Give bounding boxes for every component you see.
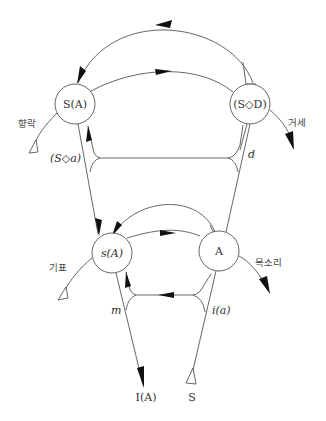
arrow-left-icon [155, 20, 172, 28]
graph-of-desire-diagram: S(A) (S◇D) s(A) A (S◇a) d m i(a) I(A) S … [0, 0, 326, 421]
endpoint-label-s: S [188, 391, 196, 404]
arrow-down-icon [285, 131, 294, 150]
node-label-big-a: A [214, 245, 224, 258]
edge-from-s [193, 271, 216, 370]
label-castration: 거세 [288, 117, 306, 128]
arrow-left-icon [158, 292, 174, 298]
arrow-down-icon [259, 276, 270, 294]
arrow-open-icon [29, 140, 38, 153]
edge-label-m: m [111, 304, 121, 317]
arrow-down-icon [137, 366, 144, 388]
arrow-open-icon [58, 287, 68, 300]
edge-top-branch [243, 62, 256, 84]
node-label-s-lozenge-d: (S◇D) [233, 98, 266, 111]
edge-label-s-lozenge-a: (S◇a) [50, 152, 81, 165]
edge-lower-bar [126, 272, 211, 295]
label-voice: 목소리 [255, 257, 282, 268]
arrow-open-icon [186, 368, 196, 384]
edge-sa-to-sd [91, 72, 233, 92]
edge-lower-arc [113, 204, 215, 234]
endpoint-label-i-a: I(A) [136, 391, 157, 404]
node-label-s-barred-a: S(A) [63, 98, 87, 111]
edge-top-arc [78, 30, 253, 83]
edge-lower-bar-left [126, 295, 136, 310]
edge-signifier [65, 258, 92, 290]
edge-upper-bar-lower-right [228, 158, 238, 172]
arrow-up-icon [86, 126, 92, 142]
arrow-right-icon [160, 230, 176, 236]
edge-right-vertical [226, 124, 250, 232]
label-jouissance: 향락 [18, 118, 36, 129]
edge-label-i-a: i(a) [212, 304, 231, 317]
edge-label-d: d [248, 148, 255, 161]
edge-lower-bar-right [193, 295, 205, 312]
arrow-down-icon [95, 218, 102, 236]
edge-upper-bar-lower-left [90, 158, 100, 172]
arrow-down-icon [77, 66, 86, 84]
edge-upper-bar [88, 125, 243, 158]
node-label-small-s-a: s(A) [101, 247, 123, 260]
edge-jouissance [35, 113, 57, 143]
label-signifier: 기표 [49, 262, 67, 273]
arrow-up-icon [125, 272, 131, 288]
